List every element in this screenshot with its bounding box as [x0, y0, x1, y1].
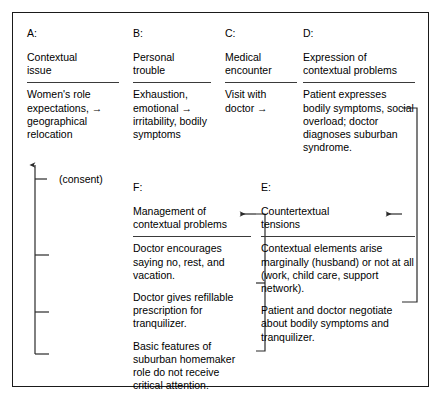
column-a-body: Women's role expectations, → geographica…	[27, 88, 119, 141]
column-b-title: Personal trouble	[133, 51, 211, 82]
column-c-text: Visit with doctor →	[225, 88, 297, 114]
column-f-text-2: Doctor gives refillable prescription for…	[133, 291, 251, 331]
column-d-key: D:	[303, 27, 415, 40]
column-f-title: Management of contextual problems	[133, 205, 251, 236]
column-c-divider	[225, 82, 297, 83]
column-f-key: F:	[133, 181, 251, 194]
column-e-body: Contextual elements arise marginally (hu…	[261, 242, 415, 343]
column-f-title-line1: Management of	[133, 205, 206, 217]
column-b: B: Personal trouble Exhaustion, emotiona…	[133, 27, 211, 141]
column-f-text-1: Doctor encourages saying no, rest, and v…	[133, 242, 251, 282]
column-e: E: Countertextual tensions Contextual el…	[261, 181, 415, 344]
column-b-body: Exhaustion, emotional → irritability, bo…	[133, 88, 211, 141]
column-b-key: B:	[133, 27, 211, 40]
column-f-body: Doctor encourages saying no, rest, and v…	[133, 242, 251, 392]
column-f-title-line2: contextual problems	[133, 218, 227, 230]
column-c-title-line2: encounter	[225, 64, 272, 76]
column-e-divider	[261, 236, 415, 237]
column-a-title: Contextual issue	[27, 51, 119, 82]
column-e-title: Countertextual tensions	[261, 205, 415, 236]
column-d-body: Patient expresses bodily symptoms, socia…	[303, 88, 415, 154]
column-a: A: Contextual issue Women's role expecta…	[27, 27, 119, 141]
column-c-key: C:	[225, 27, 297, 40]
column-b-title-line1: Personal	[133, 51, 174, 63]
column-f-divider	[133, 236, 251, 237]
column-b-divider	[133, 82, 211, 83]
column-d-divider	[303, 82, 415, 83]
column-d-title: Expression of contextual problems	[303, 51, 415, 82]
feedback-spine	[35, 165, 49, 354]
column-d-text: Patient expresses bodily symptoms, socia…	[303, 88, 415, 154]
column-a-divider	[27, 82, 119, 83]
column-d-title-line1: Expression of	[303, 51, 367, 63]
column-a-key: A:	[27, 27, 119, 40]
column-f-text-3: Basic features of suburban homemaker rol…	[133, 340, 251, 393]
column-b-text: Exhaustion, emotional → irritability, bo…	[133, 88, 211, 141]
column-e-text-2: Patient and doctor negotiate about bodil…	[261, 304, 415, 344]
column-e-title-line1: Countertextual	[261, 205, 329, 217]
column-a-title-line2: issue	[27, 64, 52, 76]
column-d: D: Expression of contextual problems Pat…	[303, 27, 415, 154]
column-d-title-line2: contextual problems	[303, 64, 397, 76]
column-e-text-1: Contextual elements arise marginally (hu…	[261, 242, 415, 295]
column-b-title-line2: trouble	[133, 64, 165, 76]
column-e-title-line2: tensions	[261, 218, 300, 230]
figure-frame: (consent) A: Contextual issue Women's ro…	[12, 12, 429, 387]
column-c-body: Visit with doctor →	[225, 88, 297, 114]
column-c-title-line1: Medical	[225, 51, 261, 63]
column-a-text: Women's role expectations, → geographica…	[27, 88, 119, 141]
column-a-title-line1: Contextual	[27, 51, 77, 63]
column-c-title: Medical encounter	[225, 51, 297, 82]
column-f: F: Management of contextual problems Doc…	[133, 181, 251, 392]
column-c: C: Medical encounter Visit with doctor →	[225, 27, 297, 115]
consent-label: (consent)	[59, 173, 103, 186]
column-e-key: E:	[261, 181, 415, 194]
